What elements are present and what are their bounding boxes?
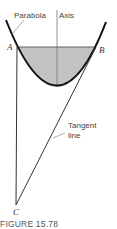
point-a-label: A (7, 43, 13, 52)
tangent-label-line: line (68, 132, 80, 140)
figure-diagram (0, 0, 117, 229)
tangent-leader (53, 133, 65, 138)
line-ac (16, 47, 17, 205)
parabola-label: Parabola (14, 12, 46, 20)
axis-label: Axis (59, 12, 74, 20)
tangent-label: Tangent (68, 122, 96, 130)
figure-caption: FIGURE 15.78 (0, 219, 58, 229)
point-b-label: B (99, 46, 105, 55)
point-c-label: C (13, 208, 19, 217)
parabola-leader (13, 20, 24, 33)
